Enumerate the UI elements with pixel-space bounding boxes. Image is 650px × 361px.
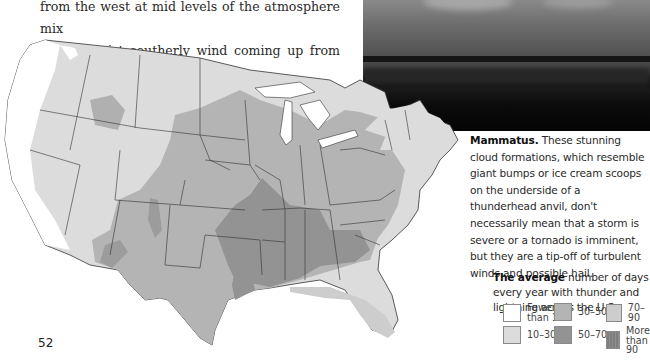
legend-swatch <box>606 331 620 349</box>
legend-swatch <box>503 304 521 322</box>
legend-swatch <box>554 303 572 321</box>
legend-label: 50–70 <box>578 330 607 340</box>
photo-caption: Mammatus. These stunning cloud formation… <box>470 132 650 281</box>
legend-item-30-50: 30–50 <box>554 303 607 321</box>
legend-label: 10–30 <box>527 330 556 340</box>
caption-lead: Mammatus. <box>470 134 539 146</box>
legend-item-10-30: 10–30 <box>503 326 556 344</box>
legend-item-70-90: 70–90 <box>606 303 650 322</box>
legend-item-50-70: 50–70 <box>554 326 607 344</box>
legend-title-lead: The average <box>493 271 565 283</box>
legend-item-more-than-90: More than 90 <box>606 326 650 355</box>
page-number: 52 <box>38 336 53 350</box>
legend-label: 30–50 <box>578 307 607 317</box>
legend-swatch <box>503 326 521 344</box>
legend-label: 70–90 <box>628 303 650 322</box>
legend-swatch <box>606 304 622 322</box>
legend-label-line: than 90 <box>626 336 650 355</box>
caption-text: These stunning cloud formations, which r… <box>470 134 644 279</box>
legend-swatch <box>554 326 572 344</box>
legend-label: More than 90 <box>626 326 650 355</box>
